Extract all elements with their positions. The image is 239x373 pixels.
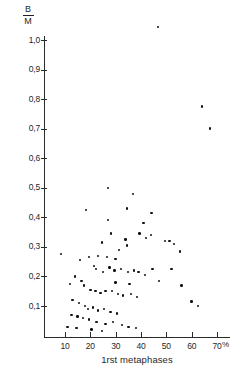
scatter-point bbox=[126, 244, 128, 246]
x-axis-unit-label: % bbox=[222, 340, 229, 350]
scatter-point bbox=[89, 289, 91, 291]
scatter-point bbox=[117, 293, 119, 295]
scatter-point bbox=[69, 283, 71, 285]
scatter-point bbox=[114, 258, 116, 260]
scatter-point bbox=[150, 212, 152, 214]
scatter-point bbox=[111, 290, 113, 292]
scatter-point bbox=[118, 249, 120, 251]
scatter-point bbox=[70, 314, 72, 316]
scatter-point bbox=[104, 323, 106, 325]
scatter-point bbox=[93, 265, 95, 267]
scatter-point bbox=[74, 275, 76, 277]
scatter-point bbox=[127, 326, 129, 328]
scatter-point bbox=[121, 324, 123, 326]
scatter-point bbox=[122, 294, 124, 296]
scatter-point bbox=[173, 243, 175, 245]
scatter-point bbox=[104, 290, 106, 292]
scatter-point bbox=[150, 234, 152, 236]
scatter-point bbox=[97, 309, 99, 311]
scatter-point bbox=[60, 253, 62, 255]
scatter-point bbox=[144, 274, 146, 276]
scatter-point bbox=[82, 317, 84, 319]
scatter-point bbox=[113, 269, 115, 271]
scatter-point bbox=[95, 321, 97, 323]
scatter-point bbox=[101, 241, 103, 243]
scatter-point bbox=[168, 240, 170, 242]
scatter-point bbox=[116, 312, 118, 314]
scatter-point bbox=[145, 237, 147, 239]
scatter-point bbox=[92, 306, 94, 308]
scatter-point bbox=[88, 256, 90, 258]
scatter-point bbox=[128, 283, 130, 285]
scatter-point bbox=[138, 232, 140, 234]
scatter-point bbox=[103, 308, 105, 310]
scatter-point bbox=[80, 280, 82, 282]
scatter-point bbox=[97, 255, 99, 257]
scatter-point bbox=[112, 321, 114, 323]
scatter-point bbox=[170, 268, 172, 270]
scatter-point bbox=[136, 296, 138, 298]
scatter-point bbox=[85, 209, 87, 211]
scatter-point bbox=[190, 300, 192, 302]
scatter-point bbox=[71, 299, 73, 301]
scatter-plot-figure: B M 0,10,20,30,40,50,60,70,80,91,0 10203… bbox=[0, 0, 239, 373]
scatter-point bbox=[106, 256, 108, 258]
scatter-point bbox=[158, 280, 160, 282]
scatter-point bbox=[137, 271, 139, 273]
scatter-point bbox=[76, 315, 78, 317]
scatter-point bbox=[95, 268, 97, 270]
scatter-point bbox=[83, 284, 85, 286]
scatter-point bbox=[133, 269, 135, 271]
scatter-point bbox=[107, 219, 109, 221]
scatter-point bbox=[109, 311, 111, 313]
scatter-point bbox=[124, 238, 126, 240]
scatter-point bbox=[94, 290, 96, 292]
scatter-point bbox=[126, 207, 128, 209]
scatter-point bbox=[201, 105, 203, 107]
scatter-point bbox=[66, 326, 68, 328]
data-points-layer bbox=[0, 0, 239, 373]
scatter-point bbox=[209, 127, 211, 129]
scatter-point bbox=[87, 308, 89, 310]
scatter-point bbox=[102, 271, 104, 273]
scatter-point bbox=[99, 292, 101, 294]
scatter-point bbox=[157, 26, 159, 28]
scatter-point bbox=[127, 271, 129, 273]
scatter-point bbox=[90, 328, 92, 330]
scatter-point bbox=[151, 268, 153, 270]
scatter-point bbox=[130, 293, 132, 295]
scatter-point bbox=[107, 187, 109, 189]
scatter-point bbox=[101, 330, 103, 332]
scatter-point bbox=[142, 222, 144, 224]
scatter-point bbox=[88, 318, 90, 320]
scatter-point bbox=[110, 232, 112, 234]
scatter-point bbox=[108, 266, 110, 268]
scatter-point bbox=[78, 302, 80, 304]
scatter-point bbox=[164, 240, 166, 242]
scatter-point bbox=[120, 268, 122, 270]
scatter-point bbox=[179, 250, 181, 252]
scatter-point bbox=[180, 284, 182, 286]
scatter-point bbox=[135, 327, 137, 329]
scatter-point bbox=[197, 305, 199, 307]
scatter-point bbox=[79, 259, 81, 261]
scatter-point bbox=[84, 305, 86, 307]
scatter-point bbox=[75, 327, 77, 329]
scatter-point bbox=[114, 281, 116, 283]
scatter-point bbox=[132, 193, 134, 195]
x-axis-title: 1rst metaphases bbox=[44, 354, 230, 365]
